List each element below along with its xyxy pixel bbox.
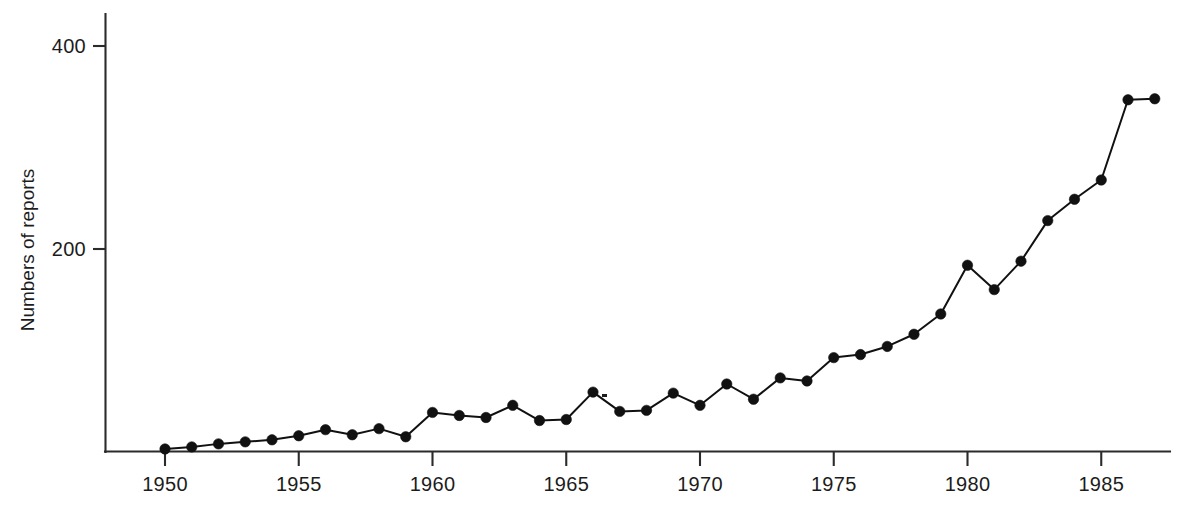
x-tick-label: 1950: [142, 473, 188, 495]
x-tick-label: 1965: [543, 473, 589, 495]
data-point: [1096, 175, 1106, 185]
y-axis-tick-labels: 200400: [52, 35, 86, 260]
data-point: [962, 260, 972, 270]
y-axis-title: Numbers of reports: [17, 169, 38, 332]
data-point: [187, 442, 197, 452]
x-axis-tick-labels: 19501955196019651970197519801985: [142, 473, 1124, 495]
data-point: [829, 352, 839, 362]
data-point: [534, 415, 544, 425]
x-axis-ticks: [165, 451, 1101, 466]
y-tick-label: 400: [52, 35, 86, 57]
data-point: [909, 329, 919, 339]
data-point: [1016, 256, 1026, 266]
data-point: [936, 309, 946, 319]
data-point: [615, 406, 625, 416]
data-point: [267, 435, 277, 445]
y-axis-ticks: [93, 46, 106, 249]
data-point: [748, 394, 758, 404]
data-point: [882, 341, 892, 351]
data-point: [989, 284, 999, 294]
data-series-line: [165, 99, 1155, 449]
data-point: [508, 400, 518, 410]
data-point: [374, 423, 384, 433]
data-point: [855, 349, 865, 359]
data-point: [695, 400, 705, 410]
data-point: [1150, 94, 1160, 104]
data-point: [775, 373, 785, 383]
x-tick-label: 1985: [1078, 473, 1124, 495]
x-tick-label: 1970: [677, 473, 723, 495]
x-tick-label: 1980: [945, 473, 991, 495]
data-point: [1043, 215, 1053, 225]
data-point: [561, 414, 571, 424]
data-point: [668, 388, 678, 398]
x-tick-label: 1975: [811, 473, 857, 495]
data-point: [481, 412, 491, 422]
data-point: [722, 379, 732, 389]
line-chart: 200400 19501955196019651970197519801985 …: [0, 0, 1177, 513]
data-point: [802, 376, 812, 386]
data-point: [401, 432, 411, 442]
data-point: [294, 431, 304, 441]
data-point: [1123, 95, 1133, 105]
data-point: [347, 430, 357, 440]
x-tick-label: 1960: [410, 473, 456, 495]
chart-figure: 200400 19501955196019651970197519801985 …: [0, 0, 1177, 513]
data-point: [160, 444, 170, 454]
scan-speck: [602, 394, 607, 397]
data-point: [427, 407, 437, 417]
data-point: [454, 410, 464, 420]
data-point: [588, 387, 598, 397]
data-point: [1069, 194, 1079, 204]
data-point: [240, 437, 250, 447]
y-tick-label: 200: [52, 238, 86, 260]
data-point: [641, 405, 651, 415]
data-point: [213, 439, 223, 449]
data-point: [320, 424, 330, 434]
x-tick-label: 1955: [276, 473, 322, 495]
